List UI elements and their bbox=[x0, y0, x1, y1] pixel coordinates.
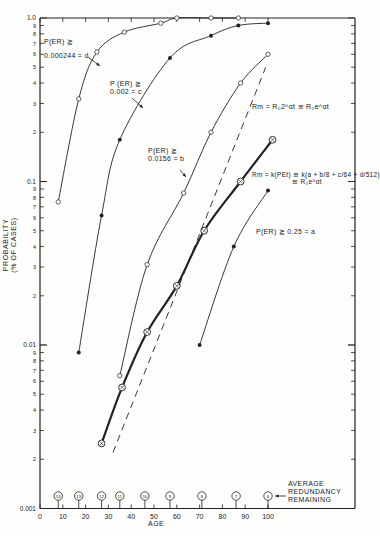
series-line bbox=[200, 191, 268, 345]
label-curve-b-line2: 0.0156 = b bbox=[148, 155, 184, 163]
data-point-filled bbox=[77, 350, 81, 354]
series-line bbox=[113, 67, 266, 452]
marker-value: 12 bbox=[99, 494, 104, 499]
y-tick-label: 4 bbox=[33, 244, 36, 250]
label-rm-equation: Rm = k(PEt) ≅ k(a + b/8 + c/64 + d/512) … bbox=[252, 171, 380, 186]
data-point-open bbox=[209, 16, 213, 20]
data-point-open bbox=[236, 16, 240, 20]
data-point-open bbox=[238, 81, 242, 85]
redundancy-label-line1: AVERAGE bbox=[288, 480, 341, 488]
label-curve-b: P(ER) ≧ 0.0156 = b bbox=[148, 147, 184, 163]
series-line bbox=[79, 23, 268, 352]
label-curve-c: P (ER) ≧ 0.002 = c bbox=[110, 80, 142, 96]
redundancy-marker: 9 bbox=[166, 492, 174, 509]
y-tick-label: 4 bbox=[33, 407, 36, 413]
y-tick-label: 8 bbox=[33, 358, 36, 364]
redundancy-marker: 12 bbox=[97, 492, 105, 509]
series-3 bbox=[98, 136, 276, 446]
y-tick-label: 1.0 bbox=[27, 14, 36, 21]
x-tick-label: 90 bbox=[241, 513, 249, 520]
redundancy-marker: 10 bbox=[141, 492, 149, 509]
data-point-filled bbox=[266, 21, 270, 25]
y-tick-label: 6 bbox=[33, 51, 36, 57]
redundancy-marker: 11 bbox=[116, 492, 124, 509]
y-tick-label: 0.01 bbox=[23, 341, 36, 348]
data-point-filled bbox=[100, 213, 104, 217]
data-point-filled bbox=[118, 138, 122, 142]
label-curve-d-line2: 0.000244 = d bbox=[44, 52, 89, 60]
pointer-arrow bbox=[180, 170, 186, 177]
redundancy-marker: 6 bbox=[264, 492, 272, 509]
y-tick-label: 0.001 bbox=[20, 505, 37, 512]
series-1 bbox=[77, 21, 270, 354]
x-tick-label: 40 bbox=[127, 513, 135, 520]
data-point-open bbox=[209, 130, 213, 134]
data-point-open bbox=[181, 191, 185, 195]
x-tick-label: 30 bbox=[105, 513, 113, 520]
redundancy-label-line2: REDUNDANCY bbox=[288, 488, 341, 496]
redundancy-markers: 14131211109876 bbox=[54, 492, 272, 509]
redundancy-marker: 8 bbox=[198, 492, 206, 509]
y-tick-label: 5 bbox=[33, 228, 36, 234]
label-rm-equation-line2: ≅ R₀e^αt bbox=[252, 178, 380, 185]
label-curve-c-line1: P (ER) ≧ bbox=[110, 80, 142, 88]
data-point-open bbox=[122, 30, 126, 34]
y-tick-label: 2 bbox=[33, 456, 36, 462]
y-axis-title-line2: (% OF CASES) bbox=[10, 200, 18, 290]
pointer-arrow bbox=[275, 494, 286, 497]
y-tick-label: 5 bbox=[33, 391, 36, 397]
x-axis-title: AGE bbox=[148, 520, 164, 527]
series-line bbox=[120, 54, 268, 375]
redundancy-marker: 13 bbox=[75, 492, 83, 509]
y-tick-label: 7 bbox=[33, 204, 36, 210]
y-tick-label: 2 bbox=[33, 129, 36, 135]
y-tick-label: 9 bbox=[33, 186, 36, 192]
data-point-filled bbox=[168, 56, 172, 60]
y-tick-label: 9 bbox=[33, 23, 36, 29]
series-5 bbox=[113, 67, 266, 452]
y-tick-label: 0.1 bbox=[27, 178, 36, 185]
marker-value: 11 bbox=[118, 494, 123, 499]
data-point-filled bbox=[198, 343, 202, 347]
data-point-open bbox=[77, 97, 81, 101]
redundancy-label-line3: REMAINING bbox=[288, 496, 341, 504]
label-rm-equation-line1: Rm = k(PEt) ≅ k(a + b/8 + c/64 + d/512) bbox=[252, 171, 380, 178]
data-series bbox=[56, 16, 286, 498]
data-point-open bbox=[175, 16, 179, 20]
marker-value: 13 bbox=[76, 494, 81, 499]
data-point-open bbox=[56, 200, 60, 204]
redundancy-marker: 14 bbox=[54, 492, 62, 509]
y-axis-title: PROBABILITY (% OF CASES) bbox=[2, 200, 19, 290]
y-axis-title-line1: PROBABILITY bbox=[2, 200, 10, 290]
y-tick-label: 3 bbox=[33, 101, 36, 107]
data-point-filled bbox=[236, 23, 240, 27]
x-tick-label: 20 bbox=[82, 513, 90, 520]
label-curve-d-line1: P(ER) ≧ bbox=[44, 38, 89, 46]
data-point-open bbox=[95, 50, 99, 54]
y-tick-label: 8 bbox=[33, 31, 36, 37]
data-point-filled bbox=[209, 34, 213, 38]
y-tick-label: 4 bbox=[33, 80, 36, 86]
data-point-filled bbox=[232, 245, 236, 249]
label-curve-d: P(ER) ≧ 0.000244 = d bbox=[44, 38, 89, 60]
label-curve-b-line1: P(ER) ≧ bbox=[148, 147, 184, 155]
label-curve-c-line2: 0.002 = c bbox=[110, 88, 142, 96]
redundancy-marker: 7 bbox=[232, 492, 240, 509]
marker-value: 10 bbox=[142, 494, 147, 499]
x-tick-label: 100 bbox=[262, 513, 274, 520]
data-point-open bbox=[159, 21, 163, 25]
x-tick-label: 10 bbox=[59, 513, 67, 520]
x-tick-label: 0 bbox=[38, 513, 42, 520]
data-point-open bbox=[266, 52, 270, 56]
y-tick-label: 6 bbox=[33, 215, 36, 221]
marker-value: 14 bbox=[56, 494, 61, 499]
y-tick-label: 5 bbox=[33, 64, 36, 70]
x-tick-label: 60 bbox=[173, 513, 181, 520]
y-tick-label: 6 bbox=[33, 378, 36, 384]
x-tick-label: 80 bbox=[219, 513, 227, 520]
data-point-open bbox=[118, 373, 122, 377]
y-tick-label: 3 bbox=[33, 428, 36, 434]
arrow-head bbox=[275, 494, 279, 497]
label-curve-a: P(ER) ≧ 0.25 = a bbox=[256, 228, 315, 236]
